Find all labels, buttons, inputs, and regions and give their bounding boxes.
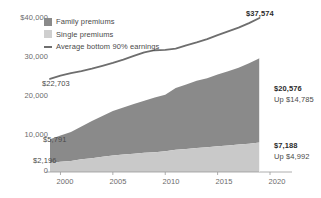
legend-item-single-premiums: Single premiums bbox=[44, 29, 159, 40]
single-start-label: $2,196 bbox=[33, 156, 57, 165]
earnings-line-swatch-icon bbox=[44, 43, 52, 51]
y-tick-label-0: 0 bbox=[2, 166, 48, 175]
x-tick-label-2015: 2015 bbox=[209, 177, 239, 186]
family-end-label: $20,576 bbox=[274, 84, 302, 93]
single-end-delta-label: Up $4,992 bbox=[274, 152, 310, 161]
single-swatch-icon bbox=[44, 30, 52, 38]
family-swatch-icon bbox=[44, 18, 52, 26]
family-start-label: $5,791 bbox=[43, 135, 67, 144]
chart-container: $40,000 30,000 20,000 10,000 0 2000 2005… bbox=[0, 0, 321, 198]
x-tick-label-2005: 2005 bbox=[103, 177, 133, 186]
y-tick-label-20000: 20,000 bbox=[2, 91, 48, 100]
legend-label-single-premiums: Single premiums bbox=[56, 30, 113, 39]
legend-item-average-earnings: Average bottom 90% earnings bbox=[44, 41, 159, 52]
legend-label-average-earnings: Average bottom 90% earnings bbox=[56, 42, 159, 51]
y-tick-label-30000: 30,000 bbox=[2, 52, 48, 61]
x-tick-label-2010: 2010 bbox=[156, 177, 186, 186]
x-tick-label-2000: 2000 bbox=[50, 177, 80, 186]
family-end-delta-label: Up $14,785 bbox=[274, 95, 314, 104]
earnings-end-label: $37,574 bbox=[246, 9, 274, 18]
single-end-label: $7,188 bbox=[274, 141, 298, 150]
x-tick-label-2020: 2020 bbox=[262, 177, 292, 186]
legend-label-family-premiums: Family premiums bbox=[56, 17, 115, 26]
legend-item-family-premiums: Family premiums bbox=[44, 16, 159, 27]
chart-legend: Family premiums Single premiums Average … bbox=[44, 16, 159, 54]
y-tick-label-40000: $40,000 bbox=[2, 13, 48, 22]
y-tick-label-10000: 10,000 bbox=[2, 130, 48, 139]
earnings-start-label: $22,703 bbox=[42, 79, 70, 88]
